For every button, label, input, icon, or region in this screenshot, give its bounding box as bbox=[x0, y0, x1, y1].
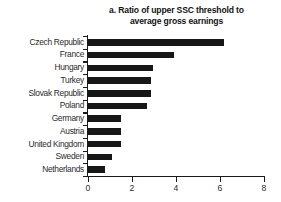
bar-row bbox=[88, 138, 121, 151]
bar-row bbox=[88, 125, 121, 138]
x-axis-tick-label: 4 bbox=[166, 183, 186, 193]
bar-row bbox=[88, 87, 151, 100]
y-axis-tick bbox=[83, 176, 88, 177]
bar bbox=[88, 39, 224, 46]
chart-title-line-1: a. Ratio of upper SSC threshold to bbox=[74, 5, 279, 16]
y-axis-label: Netherlands bbox=[2, 165, 84, 174]
bar-row bbox=[88, 61, 153, 74]
bar bbox=[88, 128, 121, 135]
bar bbox=[88, 141, 121, 148]
y-axis-label: Germany bbox=[2, 114, 84, 123]
y-axis-tick bbox=[83, 151, 88, 152]
bar-row bbox=[88, 49, 174, 62]
y-axis-label: Czech Republic bbox=[2, 38, 84, 47]
y-axis-tick bbox=[83, 125, 88, 126]
y-axis-label: Poland bbox=[2, 101, 84, 110]
y-axis-label: France bbox=[2, 50, 84, 59]
bar-row bbox=[88, 163, 105, 176]
y-axis-tick bbox=[83, 163, 88, 164]
bar-row bbox=[88, 151, 112, 164]
y-axis-label: Slovak Republic bbox=[2, 89, 84, 98]
x-axis-tick-label: 0 bbox=[78, 183, 98, 193]
y-axis-label: Turkey bbox=[2, 76, 84, 85]
y-axis-tick bbox=[83, 36, 88, 37]
y-axis-label: Sweden bbox=[2, 152, 84, 161]
plot-area bbox=[88, 36, 264, 176]
y-axis-category-labels: Czech RepublicFranceHungaryTurkeySlovak … bbox=[0, 36, 84, 176]
x-axis-tick-label: 8 bbox=[254, 183, 274, 193]
x-axis-tick bbox=[176, 177, 177, 182]
x-axis-tick bbox=[132, 177, 133, 182]
chart-title-line-2: average gross earnings bbox=[74, 16, 279, 27]
chart-figure: a. Ratio of upper SSC threshold to avera… bbox=[0, 0, 281, 202]
y-axis-tick bbox=[83, 112, 88, 113]
chart-title: a. Ratio of upper SSC threshold to avera… bbox=[74, 5, 279, 26]
bar bbox=[88, 52, 174, 59]
y-axis-label: Hungary bbox=[2, 63, 84, 72]
x-axis-tick bbox=[88, 177, 89, 182]
x-axis-tick-label: 6 bbox=[210, 183, 230, 193]
bar bbox=[88, 65, 153, 72]
bar bbox=[88, 77, 151, 84]
bar-row bbox=[88, 74, 151, 87]
y-axis-tick bbox=[83, 138, 88, 139]
bar bbox=[88, 90, 151, 97]
y-axis-tick bbox=[83, 100, 88, 101]
y-axis-tick bbox=[83, 61, 88, 62]
x-axis-tick-label: 2 bbox=[122, 183, 142, 193]
bar-row bbox=[88, 112, 121, 125]
y-axis-label: Austria bbox=[2, 127, 84, 136]
y-axis-tick bbox=[83, 74, 88, 75]
y-axis-tick bbox=[83, 49, 88, 50]
x-axis-tick bbox=[220, 177, 221, 182]
y-axis-label: United Kingdom bbox=[2, 140, 84, 149]
bar bbox=[88, 115, 121, 122]
y-axis-tick bbox=[83, 87, 88, 88]
bar-row bbox=[88, 100, 147, 113]
x-axis-tick bbox=[264, 177, 265, 182]
bar bbox=[88, 166, 105, 173]
bar bbox=[88, 154, 112, 161]
bar-row bbox=[88, 36, 224, 49]
bar bbox=[88, 103, 147, 110]
